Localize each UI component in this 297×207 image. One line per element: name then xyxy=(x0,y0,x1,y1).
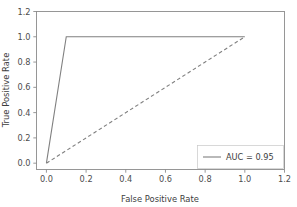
y-axis-tick-marks xyxy=(33,12,36,164)
y-tick-label: 0.4 xyxy=(17,108,30,118)
y-tick-label: 1.2 xyxy=(17,7,30,17)
roc-curve-figure: 0.00.20.40.60.81.01.2 0.00.20.40.60.81.0… xyxy=(0,0,297,207)
y-axis-tick-labels: 0.00.20.40.60.81.01.2 xyxy=(17,7,30,169)
x-axis-title: False Positive Rate xyxy=(121,194,199,204)
x-axis-tick-labels: 0.00.20.40.60.81.01.2 xyxy=(40,174,291,184)
data-series-group xyxy=(46,37,244,163)
series-line-chance-diagonal xyxy=(46,37,244,163)
x-tick-label: 0.4 xyxy=(119,174,132,184)
y-tick-label: 0.2 xyxy=(17,133,30,143)
y-axis-title: True Positive Rate xyxy=(1,53,11,129)
x-tick-label: 0.8 xyxy=(199,174,212,184)
x-tick-label: 1.2 xyxy=(278,174,291,184)
legend[interactable]: AUC = 0.95 xyxy=(198,146,284,169)
y-tick-label: 0.0 xyxy=(17,158,30,168)
plot-canvas: 0.00.20.40.60.81.01.2 0.00.20.40.60.81.0… xyxy=(0,0,297,207)
x-tick-label: 0.6 xyxy=(159,174,172,184)
x-axis-tick-marks xyxy=(46,170,284,173)
legend-label-auc: AUC = 0.95 xyxy=(226,152,274,162)
x-tick-label: 1.0 xyxy=(238,174,251,184)
y-tick-label: 0.8 xyxy=(17,57,30,67)
y-tick-label: 1.0 xyxy=(17,32,30,42)
x-tick-label: 0.2 xyxy=(80,174,93,184)
x-tick-label: 0.0 xyxy=(40,174,53,184)
y-tick-label: 0.6 xyxy=(17,82,30,92)
